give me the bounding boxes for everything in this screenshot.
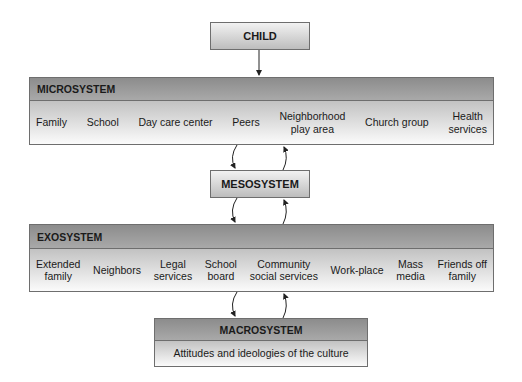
micro-item-neighborhood: Neighborhood play area [279, 110, 345, 135]
exo-item-mass-media: Mass media [396, 258, 425, 283]
macro-to-exo-arrow [283, 294, 286, 318]
micro-item-health: Health services [448, 110, 487, 135]
micro-item-church: Church group [365, 116, 429, 129]
mesosystem-box: MESOSYSTEM [210, 170, 310, 198]
meso-to-exo-arrow [232, 198, 237, 222]
child-label: CHILD [243, 30, 277, 42]
exo-item-community: Community social services [250, 258, 318, 283]
micro-to-meso-arrow [232, 145, 237, 168]
child-box: CHILD [210, 22, 310, 50]
macrosystem-description: Attitudes and ideologies of the culture [173, 347, 348, 360]
micro-item-day-care: Day care center [138, 116, 212, 129]
micro-item-peers: Peers [232, 116, 259, 129]
mesosystem-label: MESOSYSTEM [221, 178, 299, 190]
macrosystem-box: MACROSYSTEM Attitudes and ideologies of … [154, 318, 368, 367]
meso-to-micro-arrow [283, 147, 286, 170]
exo-item-extended-family: Extended family [36, 258, 80, 283]
exosystem-box: EXOSYSTEM Extended family Neighbors Lega… [29, 224, 494, 292]
micro-item-school: School [87, 116, 119, 129]
exo-item-friends: Friends off family [437, 258, 486, 283]
micro-item-family: Family [36, 116, 67, 129]
exosystem-items: Extended family Neighbors Legal services… [30, 249, 493, 291]
exo-item-legal: Legal services [154, 258, 193, 283]
microsystem-box: MICROSYSTEM Family School Day care cente… [29, 77, 494, 145]
microsystem-title: MICROSYSTEM [30, 78, 493, 101]
macrosystem-description-wrap: Attitudes and ideologies of the culture [155, 341, 367, 366]
exo-item-neighbors: Neighbors [93, 264, 141, 277]
exosystem-title: EXOSYSTEM [30, 225, 493, 249]
microsystem-items: Family School Day care center Peers Neig… [30, 101, 493, 144]
exo-to-meso-arrow [283, 200, 286, 224]
macrosystem-title: MACROSYSTEM [155, 319, 367, 341]
exo-item-school-board: School board [205, 258, 237, 283]
exo-item-workplace: Work-place [331, 264, 384, 277]
exo-to-macro-arrow [232, 292, 237, 316]
